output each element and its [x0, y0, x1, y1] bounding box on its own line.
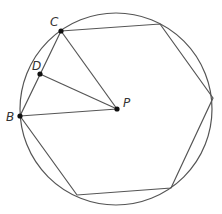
- point-p: [114, 106, 119, 111]
- point-c: [58, 28, 63, 33]
- segment-pd: [40, 74, 117, 109]
- label-b: B: [6, 110, 14, 124]
- label-p: P: [123, 96, 131, 110]
- geometry-diagram: C D B P: [0, 0, 222, 214]
- point-b: [17, 113, 22, 118]
- label-c: C: [50, 15, 59, 29]
- label-d: D: [32, 59, 41, 73]
- segment-pc: [61, 31, 117, 109]
- segment-pb: [20, 109, 117, 116]
